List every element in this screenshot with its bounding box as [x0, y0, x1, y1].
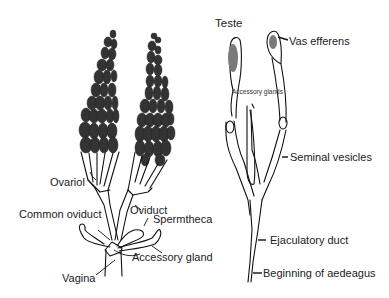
label-ejaculatory-duct: Ejaculatory duct: [270, 235, 348, 246]
label-ovariol: Ovariol: [50, 177, 85, 188]
label-teste: Teste: [215, 18, 243, 30]
left-testis-follicle: [228, 44, 238, 72]
left-ovariole-stalks: [81, 152, 119, 240]
label-accessory-glands: Accessory glands: [232, 89, 283, 96]
label-beginning-of-aedeagus: Beginning of aedeagus: [263, 268, 376, 279]
label-seminal-vesicles: Seminal vesicles: [290, 152, 372, 163]
label-vagina: Vagina: [62, 273, 95, 284]
label-spermtheca: Spermtheca: [153, 214, 212, 225]
left-ovariole-oocytes: [79, 30, 119, 153]
right-ovariole-oocytes: [135, 33, 175, 166]
label-vas-efferens: Vas efferens: [289, 36, 350, 47]
label-common-oviduct: Common oviduct: [19, 209, 102, 220]
right-testis-follicle: [269, 35, 277, 49]
label-accessory-gland: Accessory gland: [132, 252, 213, 263]
